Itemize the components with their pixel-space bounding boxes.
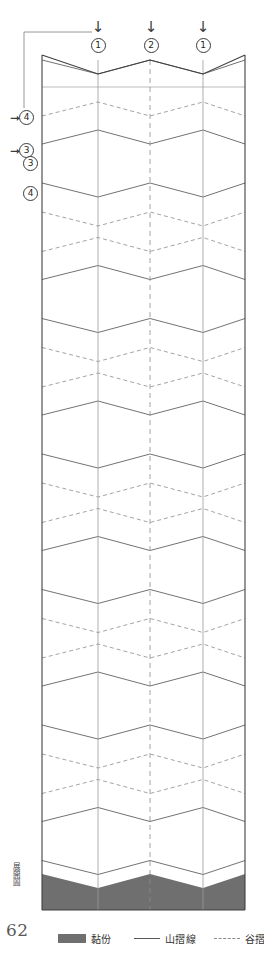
mountain-fold-line — [42, 725, 245, 739]
crease-pattern — [42, 60, 245, 904]
valley-fold-line — [42, 509, 245, 523]
valley-fold-line — [42, 102, 245, 116]
callout-number-badge: 2 — [144, 38, 159, 53]
page-number: 62 — [6, 920, 29, 940]
legend-item-mountain-fold: 山摺線 — [134, 931, 196, 946]
top-callout-3: ↓1 — [194, 22, 212, 53]
left-callout-4: 4 — [10, 186, 38, 201]
mountain-fold-line — [42, 808, 245, 822]
legend-label-valley-fold: 谷摺線 — [245, 931, 264, 946]
legend-label-mountain-fold: 山摺線 — [165, 931, 196, 946]
callout-number-badge: 3 — [23, 156, 38, 171]
legend: 黏份 山摺線 谷摺線 — [58, 928, 264, 948]
left-callout-1: ➞4 — [10, 110, 34, 125]
valley-fold-line — [42, 483, 245, 497]
arrow-down-icon: ↓ — [142, 22, 160, 33]
mountain-line-swatch-icon — [134, 938, 160, 939]
diagram-page: ↓1↓2↓1 ➞4➞334 展開圖 62 黏份 山摺線 谷摺線 — [0, 0, 264, 953]
mountain-fold-line — [42, 537, 245, 551]
callout-number-badge: 1 — [91, 38, 106, 53]
callout-number-badge: 4 — [23, 186, 38, 201]
glue-tab-fill — [42, 874, 245, 910]
glue-swatch-icon — [58, 934, 86, 943]
top-callout-2: ↓2 — [142, 22, 160, 53]
mountain-fold-line — [42, 319, 245, 333]
panel-outline — [42, 55, 245, 910]
valley-fold-line — [42, 373, 245, 387]
valley-line-swatch-icon — [214, 938, 240, 939]
mountain-fold-line — [42, 454, 245, 468]
callout-number-badge: 1 — [196, 38, 211, 53]
valley-fold-line — [42, 619, 245, 633]
top-callout-1: ↓1 — [89, 22, 107, 53]
arrow-down-icon: ↓ — [194, 22, 212, 33]
valley-fold-line — [42, 348, 245, 362]
callout-number-badge: 4 — [19, 110, 34, 125]
valley-fold-line — [42, 754, 245, 768]
arrow-down-icon: ↓ — [89, 22, 107, 33]
legend-item-glue: 黏份 — [58, 931, 112, 946]
side-caption: 展開圖 — [4, 862, 20, 886]
valley-fold-line — [42, 644, 245, 658]
valley-fold-line — [42, 212, 245, 226]
mountain-fold-line — [42, 266, 245, 280]
mountain-fold-line — [42, 401, 245, 415]
glue-tab — [42, 874, 245, 910]
valley-fold-line — [42, 780, 245, 794]
legend-label-glue: 黏份 — [91, 931, 112, 946]
legend-item-valley-fold: 谷摺線 — [214, 931, 264, 946]
valley-fold-line — [42, 238, 245, 252]
mountain-fold-line — [42, 861, 245, 875]
left-callout-3: 3 — [10, 156, 38, 171]
mountain-fold-line — [42, 183, 245, 197]
development-diagram — [0, 0, 264, 953]
mountain-fold-line — [42, 672, 245, 686]
top-edge-line — [42, 55, 245, 74]
mountain-fold-line — [42, 130, 245, 144]
mountain-fold-line — [42, 590, 245, 604]
